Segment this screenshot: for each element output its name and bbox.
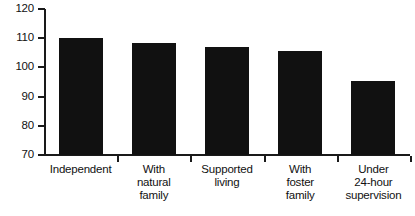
bar <box>132 43 176 155</box>
x-axis-category-label: Under 24-hour supervision <box>327 163 415 202</box>
bar <box>205 47 249 155</box>
bar <box>351 81 395 155</box>
bar-chart: 708090100110120 IndependentWith natural … <box>0 0 415 216</box>
bar <box>278 51 322 155</box>
x-axis-labels: IndependentWith natural familySupported … <box>0 163 415 216</box>
bar <box>59 38 103 155</box>
